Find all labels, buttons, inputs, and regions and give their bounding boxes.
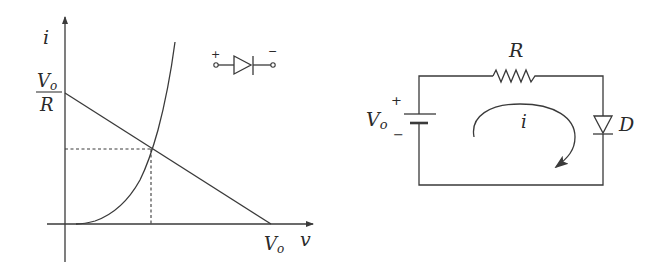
y-intercept-label: Vo R	[36, 70, 62, 115]
y-intercept-denominator: R	[39, 94, 54, 115]
battery-icon	[404, 108, 436, 123]
legend-plus-sign: +	[211, 48, 220, 61]
y-intercept-numerator: Vo	[37, 70, 57, 93]
diode-iv-curve	[76, 42, 175, 224]
diode-d-icon	[593, 116, 613, 134]
y-axis-label: i	[43, 26, 49, 48]
wire-top-right	[538, 76, 603, 116]
diode-d-triangle	[594, 116, 612, 133]
diode-triangle-icon	[234, 56, 251, 74]
diode-legend-symbol: + −	[211, 45, 277, 75]
source-minus-sign: −	[393, 127, 404, 142]
resistor-icon	[493, 70, 538, 82]
wire-top-left	[419, 76, 493, 108]
wire-bottom	[419, 124, 603, 185]
anode-terminal	[214, 63, 218, 67]
legend-minus-sign: −	[268, 45, 277, 58]
diode-label: D	[618, 113, 634, 135]
x-intercept-label: Vo	[264, 233, 284, 256]
load-line	[65, 93, 271, 224]
x-axis-label: v	[300, 228, 311, 250]
circuit-diagram: R Vo + − D i	[366, 39, 634, 185]
iv-plot: i v Vo R Vo + −	[36, 17, 313, 262]
source-label: Vo	[366, 108, 388, 132]
cathode-terminal	[271, 63, 275, 67]
figure-canvas: i v Vo R Vo + −	[0, 0, 662, 274]
resistor-label: R	[508, 39, 523, 61]
source-plus-sign: +	[391, 93, 402, 108]
current-label: i	[521, 111, 527, 132]
